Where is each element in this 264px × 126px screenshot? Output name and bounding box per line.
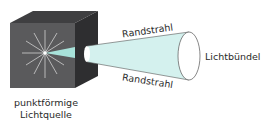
bundle-label: Lichtbündel	[205, 51, 261, 62]
point-light-source	[43, 51, 47, 55]
bundle-end-ellipse	[178, 32, 200, 80]
light-bundle-diagram: Randstrahl Randstrahl Lichtbündel punktf…	[0, 0, 264, 126]
light-bundle-cone	[84, 32, 200, 80]
source-label-line2: Lichtquelle	[20, 109, 72, 120]
source-label-line1: punktförmige	[14, 97, 78, 108]
